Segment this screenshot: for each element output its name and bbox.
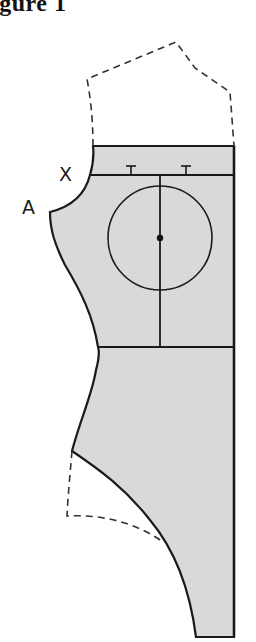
label-x: X <box>59 165 72 184</box>
shoulder-extension-dashed <box>87 42 234 146</box>
pattern-diagram <box>0 0 256 642</box>
bust-point <box>157 235 163 241</box>
bodice-pattern-piece <box>50 146 234 637</box>
label-a: A <box>22 198 35 217</box>
